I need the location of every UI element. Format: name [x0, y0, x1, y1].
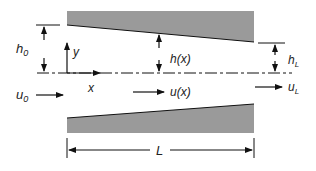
ux-label: u(x) [170, 85, 191, 99]
channel-diagram: h0 y x h(x) hL u0 u(x) uL L [0, 0, 316, 171]
L-label: L [156, 143, 163, 158]
y-label: y [72, 45, 80, 59]
bottom-plate [67, 104, 254, 133]
x-label: x [87, 81, 95, 95]
h0-label: h0 [16, 41, 28, 58]
u0-label: u0 [16, 87, 28, 104]
hL-label: hL [288, 53, 299, 69]
top-plate [67, 11, 254, 42]
uL-label: uL [288, 80, 299, 96]
hx-label: h(x) [170, 52, 191, 66]
